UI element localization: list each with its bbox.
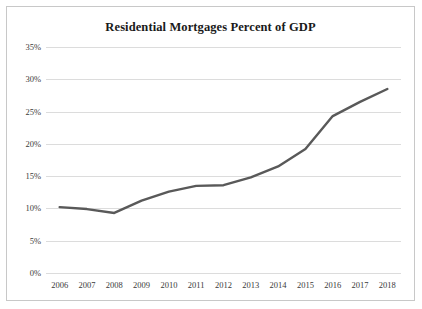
- x-axis-tick-label: 2010: [160, 280, 177, 290]
- x-axis-tick-label: 2016: [324, 280, 341, 290]
- x-axis-tick-label: 2014: [270, 280, 287, 290]
- y-axis-tick-label: 20%: [25, 139, 41, 149]
- series-polyline: [60, 89, 388, 213]
- x-axis-tick-label: 2007: [78, 280, 95, 290]
- x-axis-tick-label: 2018: [379, 280, 396, 290]
- y-axis-tick-label: 0%: [30, 268, 41, 278]
- y-axis-tick-label: 30%: [25, 74, 41, 84]
- x-axis-tick-label: 2008: [106, 280, 123, 290]
- chart-title: Residential Mortgages Percent of GDP: [7, 20, 414, 35]
- x-axis-tick-label: 2009: [133, 280, 150, 290]
- y-axis-tick-label: 25%: [25, 107, 41, 117]
- y-axis-tick-label: 5%: [30, 236, 41, 246]
- chart-container: Residential Mortgages Percent of GDP 0%5…: [6, 6, 415, 301]
- plot-area: 0%5%10%15%20%25%30%35% 20062007200820092…: [46, 47, 401, 273]
- gridline: [46, 273, 401, 274]
- x-axis-tick-label: 2017: [352, 280, 369, 290]
- x-axis-tick-label: 2011: [188, 280, 205, 290]
- line-series-residential-mortgages: [46, 47, 401, 273]
- y-axis-tick-label: 15%: [25, 171, 41, 181]
- y-axis-tick-label: 10%: [25, 203, 41, 213]
- y-axis-tick-label: 35%: [25, 42, 41, 52]
- x-axis-tick-label: 2013: [242, 280, 259, 290]
- x-axis-tick-label: 2006: [51, 280, 68, 290]
- x-axis-tick-label: 2012: [215, 280, 232, 290]
- x-axis-tick-label: 2015: [297, 280, 314, 290]
